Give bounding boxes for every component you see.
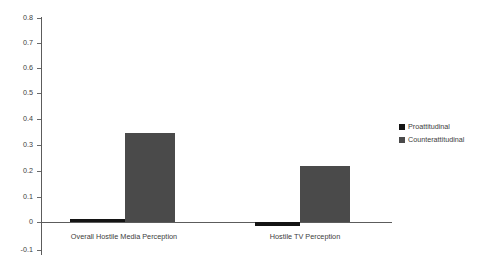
y-tick-0.5: 0.5	[37, 93, 41, 94]
y-tick--0.1: -0.1	[37, 250, 41, 251]
legend-swatch-icon	[399, 124, 405, 130]
legend-item-counterattitudinal: Counterattitudinal	[399, 133, 482, 146]
y-tick-label: 0	[29, 217, 33, 226]
y-tick-label: 0.1	[23, 192, 33, 201]
y-tick-0.6: 0.6	[37, 68, 41, 69]
y-tick-0.7: 0.7	[37, 43, 41, 44]
bar-proattitudinal-hostile-tv-perception	[255, 222, 300, 226]
legend-swatch-icon	[399, 137, 405, 143]
bar-counterattitudinal-overall-hostile-media-perception	[125, 133, 175, 222]
legend-item-proattitudinal: Proattitudinal	[399, 120, 482, 133]
y-tick-0.8: 0.8	[37, 18, 41, 19]
y-tick-0.3: 0.3	[37, 145, 41, 146]
y-tick-0.4: 0.4	[37, 119, 41, 120]
bar-chart: 0.8 0.7 0.6 0.5 0.4 0.3 0.2 0.1 0 -0.1	[0, 0, 482, 268]
y-axis-line	[41, 17, 42, 255]
y-tick-0.2: 0.2	[37, 171, 41, 172]
x-axis-category-label-hostile-tv-perception: Hostile TV Perception	[240, 232, 370, 242]
legend-label: Proattitudinal	[408, 122, 450, 131]
legend: Proattitudinal Counterattitudinal	[399, 120, 482, 146]
y-tick-label: 0.5	[23, 88, 33, 97]
y-tick-label: 0.4	[23, 114, 33, 123]
y-tick-0.1: 0.1	[37, 197, 41, 198]
legend-label: Counterattitudinal	[408, 135, 464, 144]
y-tick-label: 0.6	[23, 63, 33, 72]
y-tick-label: 0.2	[23, 166, 33, 175]
x-axis-category-label-overall-hostile-media-perception: Overall Hostile Media Perception	[54, 232, 194, 242]
x-axis-zero-line	[41, 222, 392, 223]
bar-proattitudinal-overall-hostile-media-perception	[70, 219, 125, 222]
y-tick-label: 0.3	[23, 140, 33, 149]
y-tick-label: 0.8	[23, 13, 33, 22]
y-tick-label: -0.1	[21, 245, 33, 254]
y-tick-0: 0	[37, 222, 41, 223]
y-tick-label: 0.7	[23, 38, 33, 47]
bar-counterattitudinal-hostile-tv-perception	[300, 166, 350, 222]
